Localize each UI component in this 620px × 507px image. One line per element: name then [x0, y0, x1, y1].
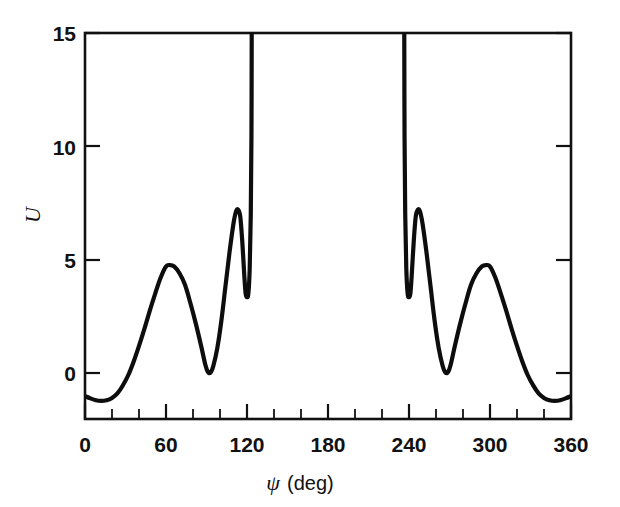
plot-area: 15 10 5 0 U 0 60 120 180 240 300 360 ψ(d… [0, 0, 620, 507]
y-axis-ticks [85, 33, 571, 373]
plot-frame [85, 33, 571, 419]
x-tick-label-120: 120 [229, 433, 264, 456]
x-tick-label-360: 360 [553, 433, 588, 456]
x-axis-title-unit: (deg) [287, 472, 334, 494]
figure-container: 15 10 5 0 U 0 60 120 180 240 300 360 ψ(d… [0, 0, 620, 507]
y-tick-label-15: 15 [53, 22, 77, 45]
y-tick-label-5: 5 [64, 249, 76, 272]
y-axis-title: U [20, 205, 45, 223]
y-tick-label-10: 10 [53, 136, 76, 159]
x-tick-label-0: 0 [79, 433, 91, 456]
x-tick-label-240: 240 [391, 433, 426, 456]
data-curve-branch-right [404, 33, 571, 401]
x-axis-ticks [85, 404, 571, 419]
y-tick-label-0: 0 [64, 362, 76, 385]
data-curve-branch-left [85, 33, 252, 401]
x-tick-label-180: 180 [310, 433, 345, 456]
x-axis-title-symbol: ψ [266, 470, 280, 495]
x-tick-label-60: 60 [154, 433, 177, 456]
x-tick-label-300: 300 [472, 433, 507, 456]
x-axis-title: ψ(deg) [266, 470, 333, 495]
